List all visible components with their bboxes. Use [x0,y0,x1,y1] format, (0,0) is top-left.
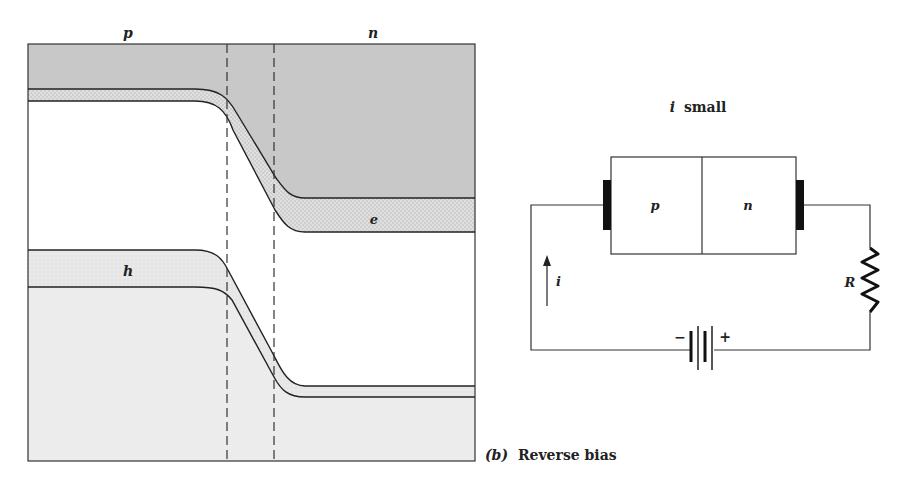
current-arrow-icon [543,255,551,306]
caption-text: Reverse bias [518,447,617,463]
electron-label: e [370,212,378,227]
current-magnitude: small [684,99,726,115]
caption-letter: (b) [485,447,508,463]
reverse-bias-figure: p n e h i small p n R − [0,0,901,486]
left-contact [603,180,611,230]
diode-body [611,157,796,254]
resistor-label: R [844,275,856,290]
right-contact [796,180,804,230]
battery-icon [691,326,712,370]
battery-minus-label: − [674,329,686,345]
p-region-label: p [123,25,133,41]
n-region-label: n [368,25,378,41]
circuit-diagram: i small p n R − + i [531,99,878,370]
conduction-band-region [28,44,475,198]
resistor-icon [862,248,878,312]
band-diagram: p n e h [28,25,475,461]
wire-right-bottom [714,312,870,350]
diode-p-label: p [650,198,659,213]
wire-right-top [804,205,870,248]
figure-caption: (b) Reverse bias [485,447,617,463]
current-variable: i [670,99,675,115]
hole-label: h [123,263,133,279]
circuit-title: i small [670,99,727,115]
diode-n-label: n [743,198,752,213]
battery-plus-label: + [719,329,731,345]
current-label: i [556,274,561,289]
